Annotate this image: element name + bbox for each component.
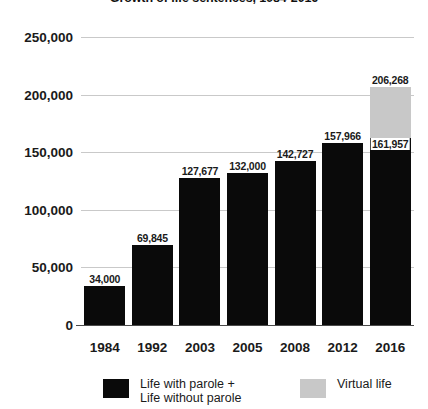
bar-segment-life-parole: [370, 138, 411, 325]
bar-segment-virtual-life: [370, 87, 411, 138]
x-axis-line: [76, 325, 414, 326]
bar-2008[interactable]: 142,727: [275, 161, 316, 325]
chart-plot-area: 050,000100,000150,000200,000250,000 34,0…: [0, 0, 428, 360]
y-axis-tick-label: 0: [0, 318, 73, 333]
legend-item-life-with-without-parole[interactable]: Life with parole + Life without parole: [103, 378, 241, 405]
bar-value-label: 132,000: [229, 160, 266, 172]
bar-segment-life-parole: [84, 286, 125, 325]
legend-label: Life with parole + Life without parole: [140, 378, 241, 405]
bar-segment-life-parole: [179, 178, 220, 325]
bar-2016[interactable]: 206,268161,957: [370, 87, 411, 325]
bar-value-label: 127,677: [182, 165, 219, 177]
bar-2012[interactable]: 157,966: [322, 143, 363, 325]
y-axis-tick-label: 50,000: [0, 260, 73, 275]
gridline: [81, 152, 414, 153]
gridline: [81, 95, 414, 96]
y-axis-tick-label: 250,000: [0, 30, 73, 45]
bar-value-label: 142,727: [277, 148, 314, 160]
chart-legend: Life with parole + Life without parole V…: [0, 374, 428, 409]
bar-value-label: 157,966: [324, 130, 361, 142]
bar-segment-value-label: 161,957: [371, 138, 410, 150]
y-axis-tick-label: 200,000: [0, 87, 73, 102]
bar-2005[interactable]: 132,000: [227, 173, 268, 325]
legend-swatch-black: [103, 379, 129, 398]
gridline: [81, 37, 414, 38]
y-axis-tick-label: 150,000: [0, 145, 73, 160]
x-axis-tick-label: 2016: [360, 340, 420, 355]
bar-segment-life-parole: [132, 245, 173, 325]
legend-swatch-gray: [300, 379, 326, 398]
bar-1984[interactable]: 34,000: [84, 286, 125, 325]
bar-1992[interactable]: 69,845: [132, 245, 173, 325]
bar-segment-life-parole: [322, 143, 363, 325]
bar-segment-life-parole: [227, 173, 268, 325]
bar-value-label: 206,268: [372, 74, 409, 86]
legend-item-virtual-life[interactable]: Virtual life: [300, 378, 392, 398]
bar-value-label: 34,000: [89, 273, 120, 285]
y-axis-tick-label: 100,000: [0, 202, 73, 217]
bar-2003[interactable]: 127,677: [179, 178, 220, 325]
bar-segment-life-parole: [275, 161, 316, 325]
bar-value-label: 69,845: [137, 232, 168, 244]
legend-label: Virtual life: [337, 378, 392, 392]
